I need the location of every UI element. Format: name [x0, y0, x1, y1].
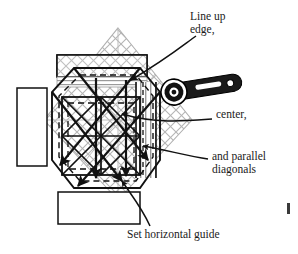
figure-canvas: Line up edge, center, and parallel diago… — [0, 0, 298, 254]
label-set-horizontal-guide: Set horizontal guide — [127, 228, 220, 241]
diagram-artwork — [0, 0, 298, 254]
margin-registration-mark — [287, 203, 290, 214]
left-flap — [17, 88, 47, 166]
ratchet-wrench — [159, 69, 244, 107]
bottom-flap — [58, 192, 140, 224]
label-center: center, — [216, 108, 247, 121]
label-line-up-edge: Line up edge, — [190, 10, 225, 36]
label-and-parallel-diagonals: and parallel diagonals — [212, 150, 266, 176]
